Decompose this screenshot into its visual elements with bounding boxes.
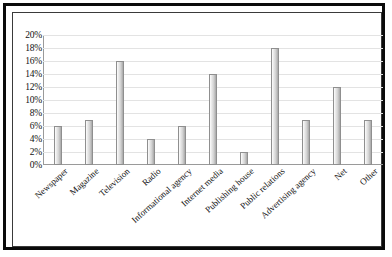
y-axis-tick-12: 12%: [25, 83, 42, 92]
y-axis-tick-18: 18%: [25, 44, 42, 53]
bar-informational-agency: [178, 126, 186, 165]
bar-newspaper: [54, 126, 62, 165]
x-axis-label-television: Television: [97, 166, 131, 198]
x-axis-label-magazine: Magazine: [68, 166, 101, 197]
bar-magazine: [85, 120, 93, 166]
figure-outer-frame: 20%18%16%14%12%10%8%6%4%2%0% NewspaperMa…: [3, 3, 385, 250]
bar-television: [116, 61, 124, 165]
bar-net: [333, 87, 341, 165]
y-axis-tick-10: 10%: [25, 96, 42, 105]
y-axis-tick-4: 4%: [30, 135, 42, 144]
x-axis-category-labels: NewspaperMagazineTelevisionRadioInformat…: [43, 166, 388, 257]
y-axis-tick-labels: 20%18%16%14%12%10%8%6%4%2%0%: [13, 13, 43, 165]
y-axis-tick-8: 8%: [30, 109, 42, 118]
bar-internet-media: [209, 74, 217, 165]
x-axis-label-newspaper: Newspaper: [33, 166, 70, 201]
bar-advertising-agency: [302, 120, 310, 166]
y-axis-tick-6: 6%: [30, 122, 42, 131]
x-axis-label-radio: Radio: [140, 166, 163, 188]
chart-canvas: [43, 35, 383, 165]
y-axis-tick-16: 16%: [25, 57, 42, 66]
y-axis-tick-20: 20%: [25, 31, 42, 40]
chart-plot-frame: 20%18%16%14%12%10%8%6%4%2%0% NewspaperMa…: [12, 12, 382, 247]
gridline: [43, 35, 383, 36]
bar-other: [364, 120, 372, 166]
y-axis-tick-0: 0%: [30, 161, 42, 170]
bar-public-relations: [271, 48, 279, 165]
x-axis-label-other: Other: [357, 166, 379, 187]
x-axis-label-net: Net: [332, 166, 348, 182]
y-axis-tick-14: 14%: [25, 70, 42, 79]
gridline: [43, 48, 383, 49]
bar-publishing-house: [240, 152, 248, 165]
x-axis-label-advertising-agency: Advertising agency: [259, 166, 318, 220]
gridline: [43, 61, 383, 62]
y-axis-tick-2: 2%: [30, 148, 42, 157]
bar-radio: [147, 139, 155, 165]
